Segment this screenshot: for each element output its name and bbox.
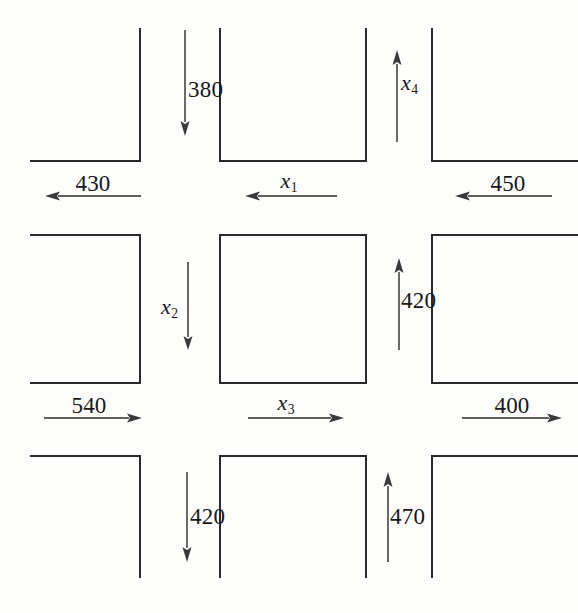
block-edge <box>219 160 367 162</box>
block-edge <box>30 234 141 236</box>
flow-label-430: 430 <box>75 172 110 195</box>
flow-label-x3: x3 <box>277 392 294 416</box>
flow-label-x4: x4 <box>401 72 418 96</box>
block-edge <box>30 455 141 457</box>
block-edge <box>431 234 578 236</box>
block-edge <box>30 160 141 162</box>
traffic-flow-diagram: 430 x1 450 540 x3 400 <box>0 0 578 613</box>
block-edge <box>431 455 433 578</box>
block-edge <box>431 382 578 384</box>
block-edge <box>365 234 367 383</box>
block-edge <box>219 382 367 384</box>
flow-label-380: 380 <box>188 78 223 101</box>
block-edge <box>139 455 141 578</box>
block-edge <box>365 455 367 578</box>
flow-label-x2: x2 <box>161 296 178 320</box>
flow-label-x1: x1 <box>280 170 297 194</box>
block-edge <box>139 234 141 383</box>
flow-label-400: 400 <box>494 394 529 417</box>
block-edge <box>431 28 433 162</box>
block-edge <box>219 455 367 457</box>
block-edge <box>219 234 367 236</box>
flow-label-450: 450 <box>490 172 525 195</box>
block-edge <box>219 234 221 383</box>
flow-label-470: 470 <box>390 505 425 528</box>
block-edge <box>431 160 578 162</box>
flow-label-420-bottom: 420 <box>190 505 225 528</box>
block-edge <box>365 28 367 162</box>
flow-arrow-x3 <box>248 411 344 425</box>
flow-arrow-x2 <box>181 262 195 350</box>
block-edge <box>431 455 578 457</box>
block-edge <box>139 28 141 162</box>
flow-label-420-middle: 420 <box>401 289 436 312</box>
flow-label-540: 540 <box>71 394 106 417</box>
block-edge <box>30 382 141 384</box>
